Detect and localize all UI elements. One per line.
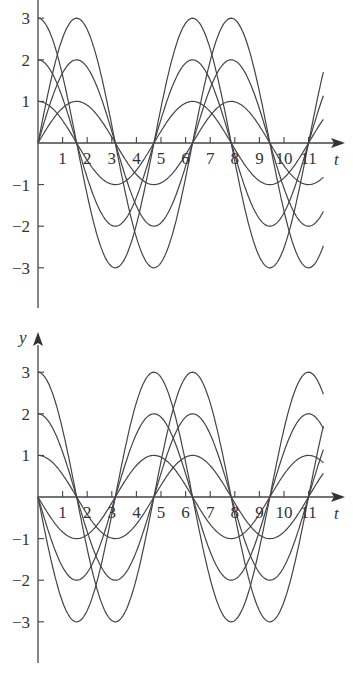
- top-x-tick-label: 8: [231, 149, 240, 168]
- bottom-x-tick-label: 3: [108, 503, 117, 522]
- bottom-x-tick-label: 4: [132, 503, 141, 522]
- bottom-y-axis-label: y: [17, 328, 27, 347]
- bottom-y-tick-label: 1: [22, 446, 31, 465]
- bottom-y-tick-label: −1: [12, 530, 30, 549]
- top-x-tick-label: 6: [181, 149, 190, 168]
- bottom-x-tick-label: 9: [255, 503, 264, 522]
- top-y-tick-label: −1: [12, 176, 30, 195]
- top-x-tick-label: 3: [108, 149, 117, 168]
- bottom-x-tick-label: 11: [300, 503, 316, 522]
- bottom-y-tick-label: −2: [12, 571, 30, 590]
- bottom-x-tick-label: 10: [276, 503, 293, 522]
- top-x-ticks: 1234567891011: [58, 137, 316, 168]
- bottom-x-tick-label: 1: [58, 503, 67, 522]
- bottom-x-tick-label: 5: [157, 503, 166, 522]
- top-x-tick-label: 11: [300, 149, 316, 168]
- top-y-tick-label: −3: [12, 259, 30, 278]
- top-x-tick-label: 2: [83, 149, 92, 168]
- bottom-y-tick-label: 3: [22, 363, 31, 382]
- bottom-y-axis-arrow-icon: [33, 332, 43, 346]
- top-x-tick-label: 9: [255, 149, 264, 168]
- bottom-y-tick-label: −3: [12, 613, 30, 632]
- chart-canvas: 1234567891011 321−1−2−3 t 1234567891011 …: [0, 0, 353, 680]
- top-x-tick-label: 5: [157, 149, 166, 168]
- bottom-plot: 1234567891011 321−1−2−3 t y: [12, 328, 345, 663]
- top-y-tick-label: −2: [12, 217, 30, 236]
- top-y-tick-label: 1: [22, 92, 31, 111]
- top-x-tick-label: 10: [276, 149, 293, 168]
- top-x-tick-label: 1: [58, 149, 67, 168]
- top-x-tick-label: 4: [132, 149, 141, 168]
- top-x-tick-label: 7: [206, 149, 215, 168]
- top-y-tick-label: 2: [22, 51, 31, 70]
- bottom-t-axis-label: t: [334, 504, 340, 523]
- bottom-x-tick-label: 7: [206, 503, 215, 522]
- top-plot: 1234567891011 321−1−2−3 t: [12, 0, 345, 308]
- top-t-axis-label: t: [334, 150, 340, 169]
- bottom-x-ticks: 1234567891011: [58, 491, 316, 522]
- bottom-x-tick-label: 2: [83, 503, 92, 522]
- bottom-y-tick-label: 2: [22, 405, 31, 424]
- bottom-x-tick-label: 6: [181, 503, 190, 522]
- top-y-tick-label: 3: [22, 9, 31, 28]
- bottom-x-tick-label: 8: [231, 503, 240, 522]
